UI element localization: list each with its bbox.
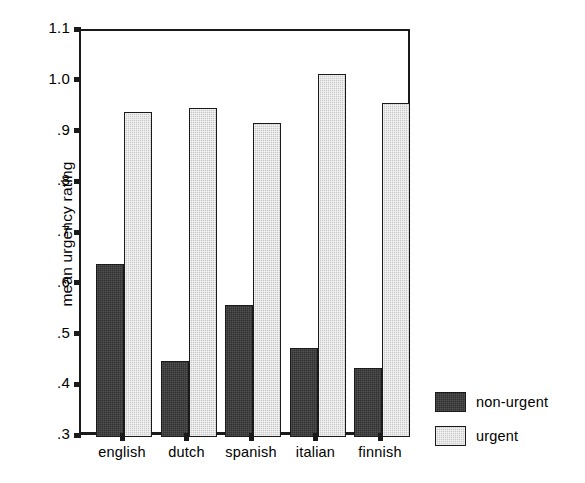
bar-italian-urgent [318, 74, 346, 437]
bar-finnish-non-urgent [354, 368, 382, 437]
x-tick-label-finnish: finnish [325, 444, 435, 460]
bar-italian-non-urgent [290, 348, 318, 437]
y-tick-mark [74, 179, 81, 184]
y-tick-mark [74, 230, 81, 235]
y-tick-label: .4 [10, 374, 70, 391]
legend-label-urgent: urgent [476, 428, 518, 444]
legend-label-non-urgent: non-urgent [476, 394, 548, 410]
legend-swatch-non-urgent [435, 392, 466, 412]
bar-spanish-non-urgent [225, 305, 253, 437]
y-tick-label: .9 [10, 121, 70, 138]
y-tick-mark [74, 331, 81, 336]
bar-dutch-non-urgent [161, 361, 189, 437]
y-tick-label: .6 [10, 273, 70, 290]
legend-swatch-urgent [435, 426, 466, 446]
y-tick-label: .8 [10, 171, 70, 188]
x-tick-mark [313, 433, 318, 441]
bar-finnish-urgent [382, 103, 410, 437]
y-tick-mark [74, 27, 81, 32]
x-tick-mark [184, 433, 189, 441]
bar-dutch-urgent [189, 108, 217, 437]
y-tick-mark [74, 77, 81, 82]
bar-chart: mean urgency rating 1.11.0.9.8.7.6.5.4.3… [0, 0, 585, 483]
y-tick-mark [74, 433, 81, 438]
bar-english-urgent [124, 112, 152, 437]
bar-english-non-urgent [96, 264, 124, 437]
y-tick-label: 1.0 [10, 70, 70, 87]
legend-item-non-urgent: non-urgent [435, 385, 548, 419]
plot-area [79, 29, 410, 435]
y-tick-label: .3 [10, 425, 70, 442]
y-tick-label: .5 [10, 324, 70, 341]
y-tick-mark [74, 382, 81, 387]
x-tick-mark [249, 433, 254, 441]
legend-item-urgent: urgent [435, 419, 548, 453]
y-tick-label: .7 [10, 222, 70, 239]
x-tick-mark [120, 433, 125, 441]
y-tick-mark [74, 280, 81, 285]
y-tick-label: 1.1 [10, 19, 70, 36]
bar-spanish-urgent [253, 123, 281, 437]
legend: non-urgenturgent [435, 385, 548, 453]
y-tick-mark [74, 128, 81, 133]
x-tick-mark [378, 433, 383, 441]
